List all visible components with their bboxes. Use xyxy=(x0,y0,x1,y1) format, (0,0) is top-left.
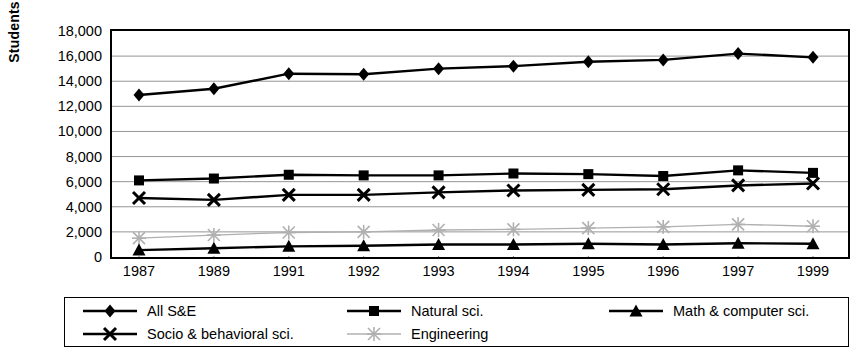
y-axis-tick-label: 18,000 xyxy=(58,23,102,39)
legend-row-1: All S&E Natural sci. Math & computer sci… xyxy=(65,299,848,323)
legend-key-diamond-icon xyxy=(79,301,141,321)
legend-item-socio-behavioral-sci[interactable]: Socio & behavioral sci. xyxy=(79,324,294,344)
legend-key-square-icon xyxy=(343,301,405,321)
legend-item-all-se[interactable]: All S&E xyxy=(79,301,196,321)
legend-label: Math & computer sci. xyxy=(673,303,809,319)
x-axis-tick-label: 1997 xyxy=(722,263,754,279)
y-axis-title: Students xyxy=(6,0,22,92)
x-axis-tick-labels: 1987198919911992199319941995199619971999 xyxy=(110,263,850,287)
legend-item-math-computer-sci[interactable]: Math & computer sci. xyxy=(605,301,809,321)
legend-label: All S&E xyxy=(147,303,196,319)
legend-row-2: Socio & behavioral sci. Engineering xyxy=(65,322,848,346)
x-axis-tick-label: 1989 xyxy=(198,263,230,279)
legend-item-engineering[interactable]: Engineering xyxy=(343,324,488,344)
legend-label: Natural sci. xyxy=(411,303,484,319)
legend-item-natural-sci[interactable]: Natural sci. xyxy=(343,301,484,321)
y-axis-tick-label: 2,000 xyxy=(66,224,102,240)
y-axis-tick-label: 4,000 xyxy=(66,199,102,215)
y-axis-tick-label: 10,000 xyxy=(58,123,102,139)
y-axis-tick-label: 0 xyxy=(94,249,102,265)
legend-key-star-icon xyxy=(343,324,405,344)
x-axis-tick-label: 1991 xyxy=(273,263,305,279)
y-axis-tick-label: 16,000 xyxy=(58,48,102,64)
legend-label: Engineering xyxy=(411,326,488,342)
x-axis-tick-label: 1994 xyxy=(497,263,529,279)
y-axis-tick-labels: 18,00016,00014,00012,00010,0008,0006,000… xyxy=(30,0,102,275)
legend-key-x-icon xyxy=(79,324,141,344)
x-axis-tick-label: 1993 xyxy=(422,263,454,279)
y-axis-tick-label: 14,000 xyxy=(58,73,102,89)
legend-key-triangle-icon xyxy=(605,301,667,321)
plot-svg xyxy=(112,31,848,257)
chart-legend: All S&E Natural sci. Math & computer sci… xyxy=(64,297,849,347)
y-axis-tick-label: 12,000 xyxy=(58,98,102,114)
legend-label: Socio & behavioral sci. xyxy=(147,326,294,342)
plot-area xyxy=(110,29,850,259)
y-axis-tick-label: 8,000 xyxy=(66,149,102,165)
x-axis-tick-label: 1992 xyxy=(348,263,380,279)
chart-figure: Students 18,00016,00014,00012,00010,0008… xyxy=(0,0,866,353)
x-axis-tick-label: 1995 xyxy=(572,263,604,279)
x-axis-tick-label: 1999 xyxy=(797,263,829,279)
y-axis-tick-label: 6,000 xyxy=(66,174,102,190)
x-axis-tick-label: 1996 xyxy=(647,263,679,279)
x-axis-tick-label: 1987 xyxy=(123,263,155,279)
